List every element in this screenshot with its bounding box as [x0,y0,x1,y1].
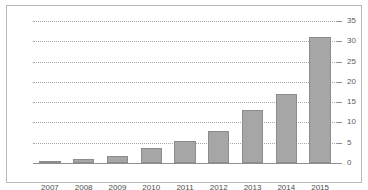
y-axis-tick-mark [337,163,342,164]
x-axis-label: 2007 [33,184,67,190]
bar [73,159,94,163]
bar-chart-figure: 05101520253035 2007200820092010201120122… [0,0,368,190]
bar [39,161,60,163]
y-axis-tick-mark [337,102,342,103]
y-axis-tick-label: 5 [347,139,351,147]
y-axis-tick-label: 20 [347,78,356,86]
bar [174,141,195,163]
y-axis-tick-mark [337,41,342,42]
chart-frame: 05101520253035 2007200820092010201120122… [6,5,362,183]
y-axis-tick-label: 10 [347,118,356,126]
x-axis-label: 2013 [236,184,270,190]
bar [309,37,330,163]
bar [107,156,128,163]
y-axis-tick-label: 30 [347,37,356,45]
x-axis-label: 2008 [67,184,101,190]
plot-area: 05101520253035 2007200820092010201120122… [33,21,337,163]
y-axis-tick-mark [337,143,342,144]
y-axis-tick-mark [337,62,342,63]
y-axis-tick-mark [337,82,342,83]
y-axis-tick-label: 25 [347,58,356,66]
y-axis-tick-label: 35 [347,17,356,25]
y-axis-tick-label: 15 [347,98,356,106]
x-axis-label: 2009 [101,184,135,190]
x-axis-label: 2010 [134,184,168,190]
gridline [33,163,337,164]
y-axis-tick-label: 0 [347,159,351,167]
bar [242,110,263,163]
x-axis-label: 2014 [269,184,303,190]
y-axis-tick-mark [337,21,342,22]
bar [208,131,229,163]
y-axis-tick-mark [337,122,342,123]
bars [33,21,337,163]
x-axis-label: 2015 [303,184,337,190]
bar [276,94,297,163]
bar [141,148,162,163]
x-axis-label: 2012 [202,184,236,190]
x-axis-label: 2011 [168,184,202,190]
